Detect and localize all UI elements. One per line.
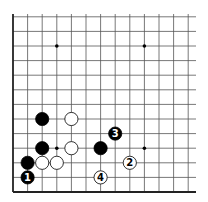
move-number: 1 [24, 172, 31, 183]
white-stone [36, 156, 49, 169]
black-stone [94, 142, 107, 155]
go-board: 1324 [0, 0, 208, 202]
hoshi-point [143, 146, 147, 150]
move-number: 4 [97, 172, 104, 183]
white-stone [65, 142, 78, 155]
black-stone [21, 156, 34, 169]
black-stone [36, 112, 49, 125]
hoshi-point [143, 44, 147, 48]
white-stone [65, 112, 78, 125]
hoshi-point [55, 44, 59, 48]
move-number: 3 [112, 128, 119, 139]
white-stone: 4 [94, 171, 107, 184]
move-number: 2 [126, 157, 133, 168]
black-stone [36, 142, 49, 155]
hoshi-point [55, 146, 59, 150]
black-stone: 1 [21, 171, 34, 184]
white-stone [50, 156, 63, 169]
black-stone: 3 [109, 127, 122, 140]
white-stone: 2 [123, 156, 136, 169]
